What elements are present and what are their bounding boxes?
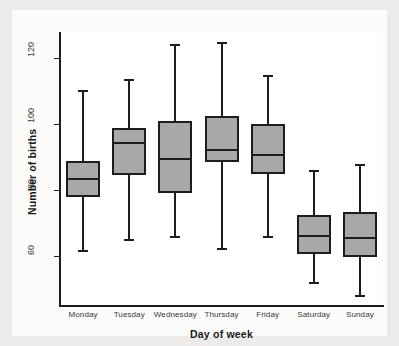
whisker-cap-upper — [217, 42, 227, 44]
plot-card: 6080100120 MondayTuesdayWednesdayThursda… — [12, 10, 387, 336]
y-tick-mark — [54, 190, 60, 191]
x-tick-label-wednesday: Wednesday — [154, 310, 197, 319]
x-tick-label-saturday: Saturday — [297, 310, 330, 319]
median-line — [343, 237, 377, 239]
whisker-cap-lower — [309, 282, 319, 284]
whisker-cap-upper — [78, 90, 88, 92]
whisker-cap-lower — [124, 239, 134, 241]
y-tick-label: 120 — [12, 58, 52, 70]
y-tick-label-text: 120 — [26, 42, 36, 57]
box-iqr — [205, 116, 239, 163]
y-tick-label-text: 100 — [26, 108, 36, 123]
x-axis-line — [59, 305, 384, 307]
x-tick-label-sunday: Sunday — [346, 310, 374, 319]
x-tick-label-monday: Monday — [69, 310, 98, 319]
box-iqr — [343, 212, 377, 257]
median-line — [158, 158, 192, 160]
median-line — [66, 178, 100, 180]
whisker-cap-upper — [263, 75, 273, 77]
x-tick-label-tuesday: Tuesday — [114, 310, 145, 319]
y-tick-mark — [54, 124, 60, 125]
y-tick-mark — [54, 256, 60, 257]
y-axis-title: Number of births — [26, 129, 38, 215]
median-line — [251, 154, 285, 156]
y-tick-label: 60 — [12, 256, 52, 268]
box-plot-figure: 6080100120 MondayTuesdayWednesdayThursda… — [0, 0, 399, 346]
whisker-cap-upper — [355, 164, 365, 166]
whisker-cap-upper — [124, 79, 134, 81]
x-axis-title: Day of week — [60, 328, 383, 340]
whisker-cap-lower — [263, 236, 273, 238]
box-iqr — [251, 124, 285, 174]
box-iqr — [112, 128, 146, 176]
y-tick-label-text: 60 — [26, 245, 36, 255]
whisker-cap-lower — [217, 248, 227, 250]
whisker-cap-upper — [170, 44, 180, 46]
y-tick-mark — [54, 58, 60, 59]
whisker-cap-lower — [355, 295, 365, 297]
whisker-cap-upper — [309, 170, 319, 172]
whisker-cap-lower — [78, 250, 88, 252]
y-axis-line — [59, 32, 61, 307]
median-line — [112, 142, 146, 144]
median-line — [297, 235, 331, 237]
x-tick-label-thursday: Thursday — [204, 310, 238, 319]
median-line — [205, 149, 239, 151]
x-tick-label-friday: Friday — [256, 310, 279, 319]
whisker-cap-lower — [170, 236, 180, 238]
